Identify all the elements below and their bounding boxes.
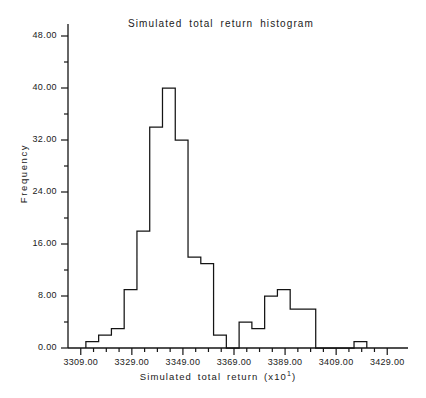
y-tick-label: 0.00 bbox=[11, 342, 57, 352]
histogram-figure: Simulated total return histogram Frequen… bbox=[0, 0, 426, 398]
y-tick-label: 48.00 bbox=[11, 30, 57, 40]
y-tick-label: 16.00 bbox=[11, 238, 57, 248]
y-tick-label: 32.00 bbox=[11, 134, 57, 144]
y-tick-label: 40.00 bbox=[11, 82, 57, 92]
y-tick-label: 8.00 bbox=[11, 290, 57, 300]
histogram-outline bbox=[86, 88, 367, 348]
y-tick-label: 24.00 bbox=[11, 186, 57, 196]
plot-area bbox=[0, 0, 426, 398]
x-tick-label: 3429.00 bbox=[357, 357, 417, 367]
